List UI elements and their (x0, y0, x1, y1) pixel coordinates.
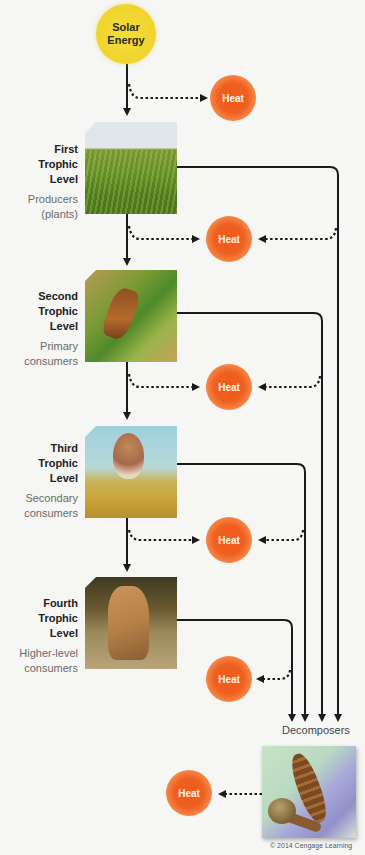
heat-node-level3: Heat (206, 517, 252, 563)
level-2-label: Second Trophic Level Primary consumers (0, 289, 78, 369)
level-3-label: Third Trophic Level Secondary consumers (0, 441, 78, 521)
heat-node-decomposers: Heat (166, 770, 212, 816)
heat-label: Heat (218, 674, 240, 685)
snail-shell-shape (268, 798, 296, 824)
level-title: Trophic (0, 611, 78, 626)
level-title: Level (0, 172, 78, 187)
heat-node-level2: Heat (206, 364, 252, 410)
heat-node-level1: Heat (206, 216, 252, 262)
level-title: Fourth (0, 596, 78, 611)
solar-energy-node: Solar Energy (96, 4, 156, 64)
level-description: Producers (0, 192, 78, 207)
level-title: Level (0, 471, 78, 486)
copyright-text: © 2014 Cengage Learning (270, 842, 352, 849)
level-title: Trophic (0, 304, 78, 319)
level-title: Level (0, 626, 78, 641)
level-description: Secondary (0, 491, 78, 506)
grasshopper-image (85, 270, 177, 362)
level-description: (plants) (0, 207, 78, 222)
level-description: Higher-level (0, 646, 78, 661)
heat-label: Heat (218, 535, 240, 546)
heat-label: Heat (218, 234, 240, 245)
bobcat-image (85, 577, 177, 669)
level-title: Trophic (0, 157, 78, 172)
level-title: Third (0, 441, 78, 456)
level-1-label: First Trophic Level Producers (plants) (0, 142, 78, 222)
heat-node-level4: Heat (206, 656, 252, 702)
level-title: Level (0, 319, 78, 334)
heat-node-solar: Heat (210, 75, 256, 121)
level-description: consumers (0, 354, 78, 369)
sparrow-image (85, 426, 177, 518)
grass-field-image (85, 122, 177, 214)
level-description: Primary (0, 339, 78, 354)
heat-label: Heat (218, 382, 240, 393)
solar-energy-label: Solar Energy (96, 21, 156, 47)
level-title: Trophic (0, 456, 78, 471)
level-description: consumers (0, 661, 78, 676)
decomposers-image (262, 746, 356, 838)
level-4-label: Fourth Trophic Level Higher-level consum… (0, 596, 78, 676)
level-description: consumers (0, 506, 78, 521)
heat-label: Heat (222, 93, 244, 104)
level-title: Second (0, 289, 78, 304)
heat-label: Heat (178, 788, 200, 799)
decomposers-label: Decomposers (282, 724, 350, 736)
level-title: First (0, 142, 78, 157)
